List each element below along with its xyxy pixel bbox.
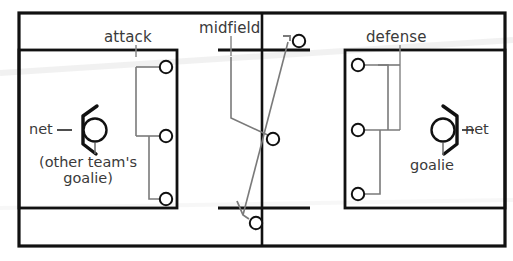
label-midfield: midfield [199,20,260,36]
defense-players-group [352,59,400,200]
midfield-player-circle [250,217,262,229]
left-goalie-and-net [57,106,107,154]
defense-player-circle [352,59,364,71]
midfield-player-circle [267,133,279,145]
midfield-player-circle [293,35,305,47]
label-goalie-right: goalie [410,158,454,174]
label-attack: attack [104,29,152,45]
attack-player-circle [160,193,172,205]
attack-player-circle [160,130,172,142]
defense-player-circle [352,188,364,200]
midfield-players-group [231,35,305,229]
label-other-team-goalie-line2: goalie) [25,171,151,187]
right-goalie-circle [432,119,455,142]
attack-player-circle [160,61,172,73]
lacrosse-field-diagram: attack midfield defense net net goalie (… [0,0,513,261]
label-other-team-goalie: (other team's goalie) [25,155,151,186]
left-goalie-circle [84,119,107,142]
label-net-right: net [465,122,489,138]
field-svg [0,0,513,261]
label-net-left: net [29,122,53,138]
label-defense: defense [366,29,427,45]
label-other-team-goalie-line1: (other team's [25,155,151,171]
defense-player-circle [352,124,364,136]
